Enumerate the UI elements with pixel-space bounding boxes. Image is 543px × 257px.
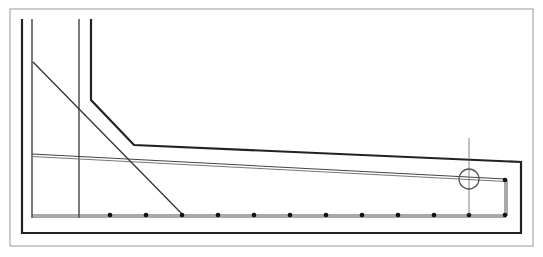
drawing-frame [10,9,533,246]
section-drawing [0,0,543,257]
rebar-dot [324,213,329,218]
rebar-dot [432,213,437,218]
rebar-dot [252,213,257,218]
rebar-dot [108,213,113,218]
rebar-dot [180,213,185,218]
rebar-dot [503,178,508,183]
concrete-outline [22,19,521,233]
diagonal-bar [33,62,183,215]
rebar-dot [360,213,365,218]
rebar-dot [288,213,293,218]
rebar-dot [144,213,149,218]
rebar-dot [396,213,401,218]
rebar-dot [503,213,508,218]
end-hook [505,180,507,216]
rebar-dot [216,213,221,218]
bar-dots [108,178,508,218]
